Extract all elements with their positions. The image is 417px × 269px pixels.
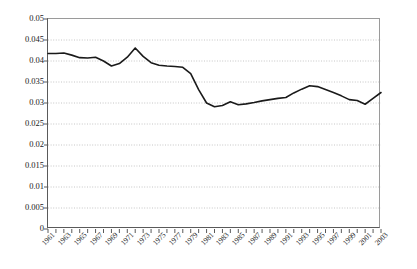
series-1-line (48, 48, 381, 107)
y-axis-tick-label: 0 (0, 224, 44, 233)
y-axis-tick-label: 0.01 (0, 182, 44, 191)
x-axis: 1961196319651967196919711973197519771979… (47, 228, 380, 269)
y-axis-tick-label: 0.015 (0, 161, 44, 170)
y-axis-tick-label: 0.025 (0, 119, 44, 128)
y-axis-tick-label: 0.045 (0, 35, 44, 44)
y-axis-tick-label: 0.03 (0, 98, 44, 107)
y-axis: 0.050.0450.040.0350.030.0250.020.0150.01… (0, 0, 44, 269)
y-axis-tick-label: 0.04 (0, 56, 44, 65)
line-chart: 0.050.0450.040.0350.030.0250.020.0150.01… (0, 0, 417, 269)
y-axis-tick-label: 0.005 (0, 203, 44, 212)
y-axis-tick-label: 0.05 (0, 14, 44, 23)
y-axis-tick-label: 0.035 (0, 77, 44, 86)
plot-area (47, 18, 380, 228)
y-axis-tick-label: 0.02 (0, 140, 44, 149)
data-series-line (48, 19, 379, 227)
